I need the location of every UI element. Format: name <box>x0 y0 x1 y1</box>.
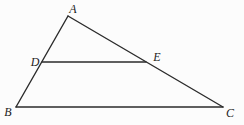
vertex-label-A: A <box>68 2 77 16</box>
triangle-midsegment-diagram: ABCDE <box>0 0 244 125</box>
geometry-figure: ABCDE <box>0 0 244 125</box>
vertex-label-E: E <box>152 50 161 64</box>
vertex-label-C: C <box>226 106 235 120</box>
vertex-label-D: D <box>30 55 40 69</box>
vertex-label-B: B <box>4 105 12 119</box>
